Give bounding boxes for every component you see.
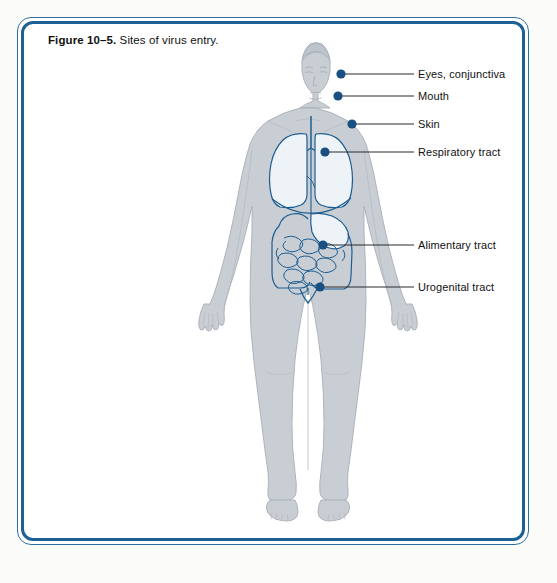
label-respiratory-tract: Respiratory tract: [418, 146, 500, 158]
label-urogenital-tract: Urogenital tract: [418, 281, 494, 293]
figure-caption: Figure 10–5. Sites of virus entry.: [48, 33, 258, 48]
label-mouth: Mouth: [418, 90, 449, 102]
label-skin: Skin: [418, 118, 440, 130]
label-eyes-conjunctiva: Eyes, conjunctiva: [418, 68, 505, 80]
label-alimentary-tract: Alimentary tract: [418, 239, 496, 251]
figure-caption-text: Sites of virus entry.: [116, 34, 218, 46]
figure-caption-number: Figure 10–5.: [48, 34, 116, 46]
